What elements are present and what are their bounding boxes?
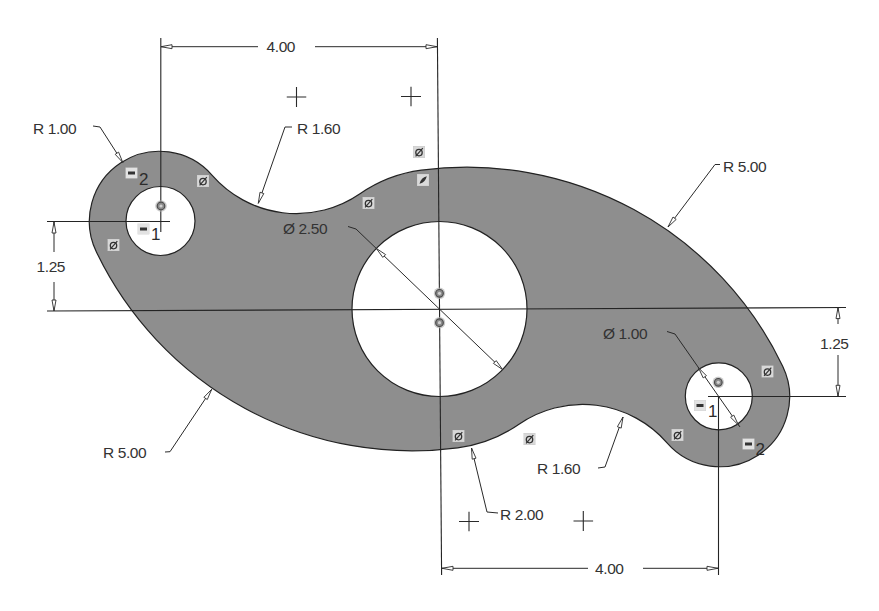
arrowhead: [52, 300, 56, 311]
dimension-value[interactable]: R 1.60: [537, 460, 581, 477]
dimension-value[interactable]: R 5.00: [103, 444, 147, 461]
sketch-point-icon[interactable]: [401, 87, 421, 107]
dimension-center-boss-radius[interactable]: R 2.00: [472, 448, 545, 523]
arrowhead: [442, 566, 453, 570]
dimension-upper-right-arc-radius[interactable]: R 5.00: [668, 158, 767, 228]
coincident-constraint-icon[interactable]: [434, 317, 446, 329]
dimension-horizontal-bottom[interactable]: 4.00: [442, 560, 718, 577]
arrowhead: [836, 308, 840, 319]
sketch-point-icon[interactable]: [287, 87, 307, 107]
leader-line: [668, 165, 720, 228]
coincident-constraint-icon[interactable]: [713, 377, 725, 389]
arrowhead: [472, 448, 477, 459]
tangent-constraint-icon[interactable]: [363, 197, 375, 209]
dimension-vertical-right[interactable]: 1.25: [820, 308, 849, 397]
equal-constraint-icon[interactable]: [694, 400, 706, 411]
sketch-canvas[interactable]: 4.00 4.00 1.25 1.25 Ø 2.50 Ø 1.00: [0, 0, 879, 611]
dimension-vertical-left[interactable]: 1.25: [37, 222, 66, 311]
arrowhead: [617, 417, 623, 428]
dimension-value[interactable]: R 1.00: [33, 120, 77, 137]
sketch-point-icon[interactable]: [573, 511, 593, 531]
tangent-constraint-icon[interactable]: [108, 239, 120, 251]
coincident-constraint-icon[interactable]: [434, 288, 446, 300]
dimension-value[interactable]: R 2.00: [500, 506, 544, 523]
constraint-index: 1: [708, 402, 717, 421]
coincident-constraint-icon[interactable]: [155, 200, 167, 212]
dimension-value[interactable]: R 5.00: [723, 158, 767, 175]
dimension-lower-fillet-radius[interactable]: R 1.60: [537, 417, 623, 477]
arrowhead: [115, 152, 123, 162]
arrowhead: [161, 45, 172, 49]
arrowhead: [836, 385, 840, 396]
dimension-left-boss-radius[interactable]: R 1.00: [33, 120, 123, 163]
tangent-constraint-icon[interactable]: [453, 430, 465, 442]
tangent-constraint-icon[interactable]: [672, 429, 684, 441]
equal-constraint-icon[interactable]: [138, 224, 150, 235]
leader-line: [258, 127, 292, 203]
constraint-index: 2: [139, 170, 148, 189]
dimension-value[interactable]: 4.00: [267, 38, 296, 55]
dimension-value[interactable]: R 1.60: [297, 120, 341, 137]
sketch-point-icon[interactable]: [459, 512, 479, 532]
dimension-value[interactable]: Ø 2.50: [283, 220, 328, 237]
dimension-value[interactable]: 1.25: [37, 258, 66, 275]
arrowhead: [707, 566, 718, 570]
dimension-lower-left-arc-radius[interactable]: R 5.00: [103, 389, 212, 460]
tangent-constraint-icon[interactable]: [413, 146, 425, 158]
dimension-upper-fillet-radius[interactable]: R 1.60: [258, 120, 341, 203]
arrowhead: [204, 389, 212, 399]
equal-constraint-icon[interactable]: [743, 439, 755, 450]
arrowhead: [258, 192, 264, 203]
equal-constraint-icon[interactable]: [126, 168, 138, 179]
leader-line: [165, 389, 212, 452]
dimension-value[interactable]: 1.25: [820, 335, 849, 352]
smooth-constraint-icon[interactable]: [417, 174, 429, 186]
dimension-value[interactable]: 4.00: [595, 560, 624, 577]
tangent-constraint-icon[interactable]: [524, 433, 536, 445]
arrowhead: [426, 45, 437, 49]
tangent-constraint-icon[interactable]: [762, 366, 774, 378]
tangent-constraint-icon[interactable]: [197, 175, 209, 187]
dimension-value[interactable]: Ø 1.00: [603, 325, 648, 342]
arrowhead: [668, 217, 676, 227]
constraint-index: 2: [756, 440, 765, 459]
dimension-horizontal-top[interactable]: 4.00: [161, 38, 437, 55]
arrowhead: [52, 222, 56, 233]
constraint-index: 1: [151, 225, 160, 244]
